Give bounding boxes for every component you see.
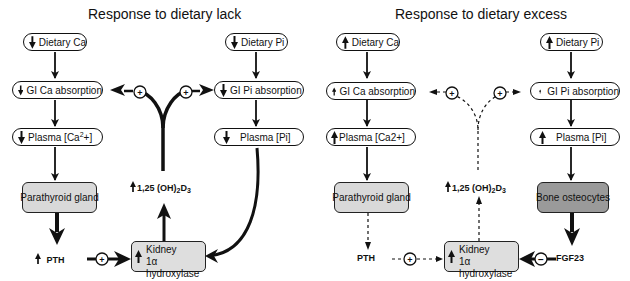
arrow-up-icon	[546, 36, 553, 49]
node-gi-ca-absorption: GI Ca absorption	[326, 82, 416, 100]
arrow-down-icon	[223, 131, 230, 144]
sign-fgf23-kidney: −	[538, 254, 544, 265]
sign-pth-kidney: +	[407, 255, 412, 265]
node-vitamin-d: 1,25 (OH)2D3	[130, 181, 191, 194]
node-dietary-pi: Dietary Pi	[540, 33, 603, 51]
node-label: GI Pi absorption	[230, 85, 302, 96]
sign-pth-kidney: +	[99, 255, 104, 265]
label-prefix: Plasma [Ca	[28, 132, 80, 143]
node-pth: PTH	[357, 253, 375, 263]
node-gi-pi-absorption: GI Pi absorption	[530, 82, 620, 100]
kidney-line-1: Kidney	[146, 244, 205, 256]
node-label: Dietary Ca	[352, 37, 399, 48]
arrow-up-icon	[342, 36, 349, 49]
arrow-up-icon	[332, 85, 336, 98]
node-bone-osteocytes: Bone osteocytes	[537, 182, 609, 213]
node-dietary-ca: Dietary Ca	[23, 33, 87, 51]
node-parathyroid-gland: Parathyroid gland	[334, 182, 409, 213]
arrow-up-icon	[448, 250, 455, 263]
arrow-down-icon	[18, 131, 25, 144]
node-label: GI Pi absorption	[547, 86, 619, 97]
sign-vitd-gi-ca: +	[449, 89, 454, 99]
arrow-plasma-pi-to-kidney	[209, 148, 258, 256]
panel-title-excess: Response to dietary excess	[395, 6, 567, 22]
node-dietary-ca: Dietary Ca	[336, 33, 400, 51]
arrow-down-icon	[29, 36, 36, 49]
node-gi-ca-absorption: GI Ca absorption	[12, 81, 103, 99]
sign-vitd-gi-ca: +	[137, 88, 142, 98]
node-dietary-pi: Dietary Pi	[225, 33, 288, 51]
arrow-up-icon	[539, 131, 546, 144]
arrow-head-gi-ca	[110, 84, 125, 96]
node-kidney-hydroxylase: Kidney 1α hydroxylase	[444, 241, 519, 272]
node-fgf23: FGF23	[556, 253, 584, 263]
kidney-line-1: Kidney	[459, 244, 518, 256]
arrow-head-gi-ca	[429, 89, 437, 95]
node-label: GI Ca absorption	[339, 86, 415, 97]
node-vitamin-d: 1,25 (OH)2D3	[445, 181, 506, 194]
sign-vitd-gi-pi: +	[497, 89, 502, 99]
label-main: 1,25 (OH)	[452, 183, 492, 193]
node-label: Dietary Pi	[241, 37, 284, 48]
branch-vitd-to-gi-pi	[478, 96, 497, 130]
arrow-down-icon	[231, 36, 238, 49]
arrow-up-icon	[130, 181, 136, 192]
label-sub: 3	[187, 187, 191, 194]
node-plasma-pi: Plasma [Pi]	[214, 128, 304, 146]
arrow-up-icon	[135, 250, 142, 263]
node-plasma-ca: Plasma [Ca2+]	[12, 128, 103, 146]
arrow-down-icon	[220, 84, 227, 97]
arrow-head-pth	[365, 242, 371, 250]
panel-title-lack: Response to dietary lack	[88, 6, 241, 22]
label-sub: 3	[502, 187, 506, 194]
arrow-head-gi-pi	[513, 89, 521, 95]
node-kidney-hydroxylase: Kidney 1α hydroxylase	[131, 241, 206, 272]
node-label: Dietary Ca	[39, 37, 86, 48]
arrow-head-gi-pi	[199, 84, 214, 96]
node-parathyroid-gland: Parathyroid gland	[22, 182, 97, 213]
label-main: 1,25 (OH)	[137, 183, 177, 193]
node-label: Plasma [Pi]	[556, 132, 607, 143]
arrow-head-kidney-left	[436, 256, 443, 262]
branch-vitd-to-gi-ca	[138, 91, 163, 171]
arrow-head-vitd	[476, 196, 482, 204]
label-suffix: +]	[84, 132, 93, 143]
arrow-down-icon	[18, 84, 23, 97]
sign-vitd-gi-pi: +	[183, 88, 188, 98]
node-label: Dietary Pi	[556, 37, 599, 48]
arrow-up-icon	[35, 253, 41, 264]
node-label: GI Ca absorption	[26, 85, 102, 96]
branch-vitd-to-gi-ca	[456, 96, 478, 170]
arrow-up-icon	[539, 85, 541, 98]
node-label: PTH	[47, 255, 65, 265]
arrow-up-icon	[331, 131, 338, 144]
node-label: Plasma [Pi]	[240, 132, 291, 143]
node-label: Plasma [Ca2+]	[28, 131, 92, 143]
arrow-up-icon	[445, 181, 451, 192]
kidney-line-2: 1α hydroxylase	[459, 256, 518, 280]
node-label: Plasma [Ca2+]	[339, 132, 405, 143]
node-gi-pi-absorption: GI Pi absorption	[214, 81, 304, 99]
node-plasma-ca: Plasma [Ca2+]	[326, 128, 416, 146]
kidney-line-2: 1α hydroxylase	[146, 256, 205, 280]
node-plasma-pi: Plasma [Pi]	[530, 128, 620, 146]
node-pth: PTH	[35, 253, 65, 265]
